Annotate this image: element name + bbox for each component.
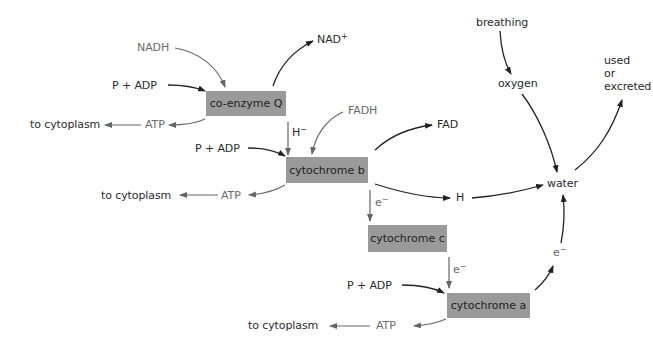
e-minus-label-1: e−	[375, 196, 388, 209]
h-minus-text: H	[292, 126, 300, 139]
cytochrome-c-box: cytochrome c	[368, 225, 447, 252]
coenzyme-q-box: co-enzyme Q	[206, 91, 286, 116]
h-minus-label: H−	[292, 126, 307, 139]
arrow-water-to-excreted	[575, 100, 622, 170]
e-minus-superscript-3: −	[560, 245, 567, 254]
arrow-padp-to-cytb	[248, 148, 285, 156]
arrow-coq-to-atp-1	[169, 119, 205, 125]
arrow-cyta-to-atp-3	[414, 319, 446, 326]
e-minus-text-3: e	[553, 246, 560, 259]
fad-label: FAD	[437, 118, 458, 131]
arrow-e-to-water	[561, 195, 564, 243]
used-label: used	[604, 54, 630, 67]
e-minus-text-2: e	[453, 263, 460, 276]
to-cytoplasm-label-2: to cytoplasm	[101, 189, 171, 202]
p-adp-label-3: P + ADP	[347, 279, 392, 292]
p-adp-label-2: P + ADP	[195, 142, 240, 155]
nad-text: NAD	[317, 33, 341, 46]
water-label: water	[547, 177, 578, 190]
arrow-fadh-to-cytb	[312, 112, 343, 154]
arrow-nadh-to-coq	[175, 48, 225, 87]
p-adp-label-1: P + ADP	[112, 79, 157, 92]
breathing-label: breathing	[476, 16, 528, 29]
cytochrome-a-box: cytochrome a	[447, 293, 530, 318]
oxygen-label: oxygen	[498, 77, 538, 90]
nadh-label: NADH	[137, 41, 169, 54]
arrow-oxygen-to-water	[522, 94, 557, 172]
e-minus-label-2: e−	[453, 263, 466, 276]
atp-label-2: ATP	[221, 189, 241, 202]
h-label: H	[456, 191, 464, 204]
arrow-coq-to-nad	[273, 41, 313, 86]
nad-plus-label: NAD+	[317, 33, 348, 46]
electron-transport-chain-diagram: co-enzyme Q cytochrome b cytochrome c cy…	[0, 0, 653, 342]
arrow-h-to-water	[472, 185, 543, 198]
excreted-label: excreted	[604, 80, 651, 93]
h-minus-superscript: −	[300, 125, 307, 134]
fadh-label: FADH	[348, 104, 377, 117]
to-cytoplasm-label-1: to cytoplasm	[30, 118, 100, 131]
atp-label-1: ATP	[145, 118, 165, 131]
nad-plus-superscript: +	[341, 32, 348, 41]
arrow-padp-to-cyta	[402, 285, 444, 293]
arrow-padp-to-coq-1	[168, 85, 205, 91]
arrow-breathing-to-oxygen	[500, 31, 511, 74]
e-minus-superscript-2: −	[460, 262, 467, 271]
cytochrome-b-box: cytochrome b	[286, 157, 368, 183]
e-minus-text-1: e	[375, 196, 382, 209]
e-minus-superscript-1: −	[382, 195, 389, 204]
or-label: or	[604, 67, 615, 80]
to-cytoplasm-label-3: to cytoplasm	[248, 319, 318, 332]
atp-label-3: ATP	[376, 319, 396, 332]
e-minus-label-3: e−	[553, 246, 566, 259]
arrow-cytb-to-fad	[375, 125, 432, 150]
arrow-cyta-to-e	[535, 266, 553, 290]
arrow-cytb-to-atp-2	[249, 185, 285, 195]
